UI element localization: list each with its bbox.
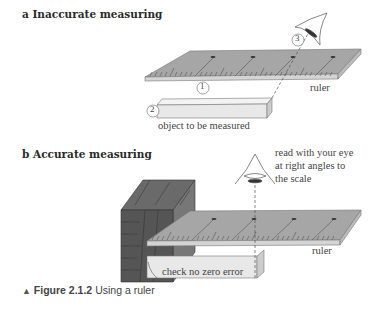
marker-2-label: 2 [150, 104, 155, 114]
figure-caption: ▲ Figure 2.1.2 Using a ruler [22, 284, 155, 296]
eye-note-line-3: the scale [275, 172, 353, 185]
marker-3-label: 3 [295, 33, 300, 43]
panel-b-heading: b Accurate measuring [22, 148, 152, 160]
object-label: object to be measured [158, 120, 250, 131]
panel-a-heading: a Inaccurate measuring [22, 8, 162, 20]
ruler-b-label: ruler [312, 245, 332, 256]
eye-note: read with your eye at right angles to th… [275, 146, 353, 185]
eye-icon [235, 154, 275, 184]
marker-1-label: 1 [200, 81, 205, 91]
ruler-a-label: ruler [310, 82, 330, 93]
zero-error-label: check no zero error [162, 266, 243, 277]
eye-note-line-1: read with your eye [275, 146, 353, 159]
object-a [157, 98, 272, 118]
ruler-a [145, 49, 361, 81]
caption-triangle-icon: ▲ [22, 286, 31, 296]
eye-note-line-2: at right angles to [275, 159, 353, 172]
caption-text: Using a ruler [95, 284, 155, 296]
caption-figure-number: Figure 2.1.2 [34, 284, 92, 296]
